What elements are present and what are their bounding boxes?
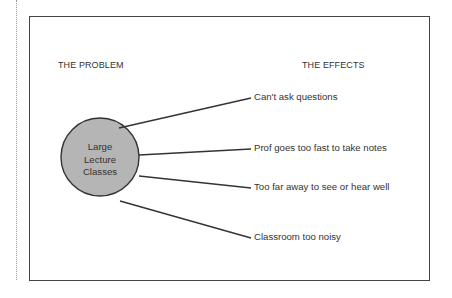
connector-line-3 [139,176,251,188]
connector-line-1 [119,98,251,128]
connector-line-4 [120,201,251,238]
problem-label-line: Classes [60,166,140,179]
problem-label-line: Lecture [60,154,140,167]
problem-label-line: Large [60,141,140,154]
effect-label: Can't ask questions [254,91,337,102]
connector-line-2 [139,149,251,155]
problem-label: Large Lecture Classes [60,141,140,179]
effect-label: Prof goes too fast to take notes [254,142,387,153]
effect-label: Classroom too noisy [254,231,341,242]
effect-label: Too far away to see or hear well [254,181,389,192]
